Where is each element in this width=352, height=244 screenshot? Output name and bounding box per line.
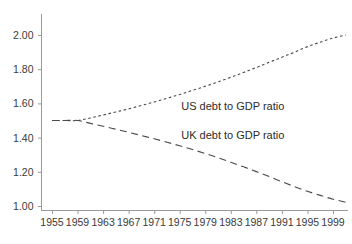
y-axis-ticks [38,36,42,207]
y-tick-label: 1.60 [4,98,34,109]
debt-to-gdp-ratio-chart: 1.001.201.401.601.802.00 195519591963196… [0,0,352,244]
y-tick-label: 2.00 [4,30,34,41]
x-tick-label: 1999 [318,217,348,228]
series-lines [52,35,346,202]
y-tick-label: 1.20 [4,167,34,178]
series-annotation-uk: UK debt to GDP ratio [181,130,284,141]
y-tick-label: 1.40 [4,133,34,144]
y-tick-label: 1.00 [4,201,34,212]
y-tick-label: 1.80 [4,64,34,75]
chart-canvas [0,0,352,244]
x-axis-ticks [53,211,334,215]
series-annotation-us: US debt to GDP ratio [181,101,284,112]
axes [42,14,349,211]
